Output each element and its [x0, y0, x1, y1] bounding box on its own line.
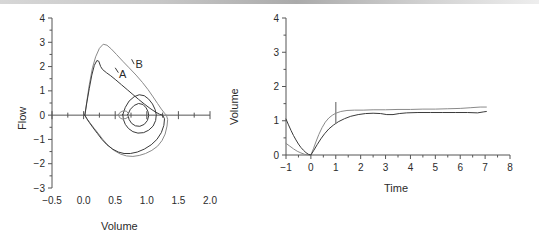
x-tick-label: 1.0 — [140, 195, 154, 206]
x-tick-label: 7 — [482, 162, 488, 173]
x-tick-label: 4 — [408, 162, 414, 173]
y-tick-label: 3 — [39, 37, 45, 48]
x-tick-label: 0.0 — [77, 195, 91, 206]
annotation-label-A: A — [119, 68, 127, 80]
figure-container: 43210−1−2−3−0.50.00.51.01.52.0AB Flow Vo… — [0, 0, 539, 243]
x-tick-label: 1 — [333, 162, 339, 173]
curve-curve-A — [286, 112, 486, 156]
x-tick-label: −1 — [280, 162, 292, 173]
y-tick-label: −2 — [34, 158, 46, 169]
x-tick-label: −0.5 — [42, 195, 62, 206]
y-tick-label: 1 — [273, 115, 279, 126]
y-tick-label: 2 — [39, 61, 45, 72]
annotation-pointer — [132, 59, 135, 64]
flow-volume-plot: 43210−1−2−3−0.50.00.51.01.52.0AB — [0, 0, 262, 243]
flow-axis-title: Flow — [16, 107, 28, 130]
y-tick-label: 0 — [39, 110, 45, 121]
x-tick-label: 3 — [383, 162, 389, 173]
y-tick-label: 4 — [273, 13, 279, 24]
annotation-pointer — [115, 68, 118, 73]
x-tick-label: 1.5 — [171, 195, 185, 206]
flow-volume-panel: 43210−1−2−3−0.50.00.51.01.52.0AB Flow Vo… — [0, 0, 262, 243]
y-tick-label: −3 — [34, 183, 46, 194]
volume-time-panel: 01234−1012345678 Volume Time — [262, 0, 539, 243]
time-axis-title: Time — [384, 182, 408, 194]
x-tick-label: 6 — [457, 162, 463, 173]
y-tick-label: 1 — [39, 85, 45, 96]
y-tick-label: 3 — [273, 47, 279, 58]
y-tick-label: −1 — [34, 134, 46, 145]
volume-time-plot: 01234−1012345678 — [262, 0, 539, 243]
x-tick-label: 2.0 — [203, 195, 217, 206]
x-tick-label: 0 — [308, 162, 314, 173]
volume-axis-title-right: Volume — [228, 88, 240, 125]
y-tick-label: 4 — [39, 13, 45, 24]
x-tick-label: 2 — [358, 162, 364, 173]
volume-axis-title: Volume — [101, 220, 138, 232]
x-tick-label: 5 — [433, 162, 439, 173]
annotation-label-B: B — [136, 58, 143, 70]
x-tick-label: 0.5 — [108, 195, 122, 206]
y-tick-label: 0 — [273, 150, 279, 161]
x-tick-label: 8 — [507, 162, 513, 173]
y-tick-label: 2 — [273, 81, 279, 92]
